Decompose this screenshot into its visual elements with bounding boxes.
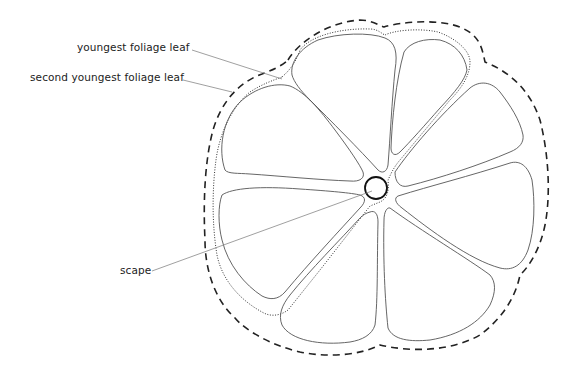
label-scape: scape [120, 264, 151, 276]
leader-second-youngest [183, 80, 232, 92]
leaf-right-lower [396, 162, 534, 269]
label-youngest-foliage-leaf: youngest foliage leaf [77, 41, 189, 53]
scape-circle [365, 177, 387, 199]
leaf-bottom-right [384, 208, 495, 341]
inner-dotted-boundary [213, 29, 470, 315]
bud-cross-section-diagram [0, 0, 574, 378]
leaf-top-right [391, 40, 467, 155]
leader-youngest [192, 50, 282, 79]
leaf-youngest [292, 34, 396, 172]
leaf-right-upper [395, 83, 523, 186]
leaf-left-lower [219, 188, 365, 299]
label-second-youngest-foliage-leaf: second youngest foliage leaf [30, 71, 184, 83]
leaf-bottom [280, 211, 378, 343]
